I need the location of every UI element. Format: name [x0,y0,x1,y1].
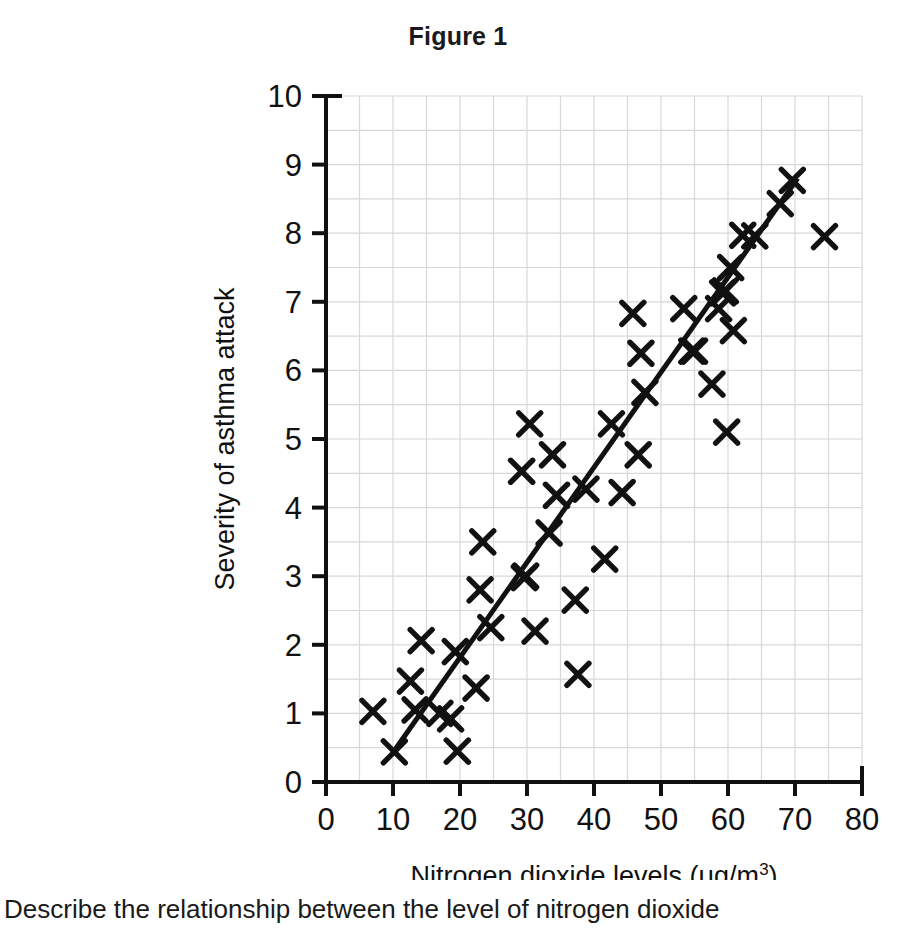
scatter-chart: 01020304050607080012345678910 Nitrogen d… [0,0,916,880]
data-point-marker [519,413,541,435]
data-point-marker [410,630,432,652]
data-point-marker [567,663,589,685]
x-tick-label: 50 [644,802,678,837]
y-tick-label: 1 [285,696,302,731]
data-point-marker [722,320,744,342]
data-point-marker [465,677,487,699]
x-tick-label: 30 [510,802,544,837]
x-tick-label: 80 [845,802,879,837]
data-point-marker [446,740,468,762]
y-axis-title: Severity of asthma attack [210,287,240,591]
data-point-marker [701,373,723,395]
x-tick-label: 60 [711,802,745,837]
y-tick-label: 4 [285,491,302,526]
data-point-marker [627,444,649,466]
data-point-marker [564,589,586,611]
y-tick-label: 5 [285,422,302,457]
data-point-marker [813,226,835,248]
chart-svg: 01020304050607080012345678910 Nitrogen d… [0,0,916,880]
x-axis-title: Nitrogen dioxide levels (μg/m3) [410,860,777,880]
x-tick-label: 70 [778,802,812,837]
data-point-marker [399,670,421,692]
data-point-marker [469,579,491,601]
question-prompt: Describe the relationship between the le… [4,893,904,925]
data-point-marker [362,700,384,722]
y-tick-label: 7 [285,285,302,320]
data-point-marker [594,548,616,570]
data-point-marker [511,460,533,482]
x-tick-label: 40 [577,802,611,837]
data-point-marker [630,342,652,364]
y-tick-label: 6 [285,353,302,388]
data-point-marker [716,421,738,443]
y-tick-label: 9 [285,148,302,183]
data-point-marker [611,482,633,504]
y-tick-label: 8 [285,216,302,251]
data-points [362,169,836,762]
x-tick-label: 20 [443,802,477,837]
y-tick-label: 2 [285,628,302,663]
trend-line [393,178,798,752]
data-point-marker [545,484,567,506]
data-point-marker [673,298,695,320]
data-point-marker [622,302,644,324]
y-tick-label: 0 [285,765,302,800]
y-tick-label: 10 [268,79,302,114]
y-tick-label: 3 [285,559,302,594]
x-tick-label: 0 [317,802,334,837]
x-tick-label: 10 [376,802,410,837]
